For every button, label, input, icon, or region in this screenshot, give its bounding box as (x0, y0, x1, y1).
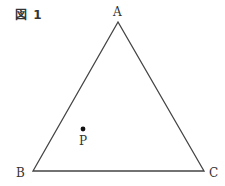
vertex-label-b: B (16, 166, 25, 180)
vertex-label-a: A (112, 5, 122, 19)
point-label-p: P (79, 134, 87, 148)
triangle-diagram: A B C P (0, 0, 225, 186)
point-p-dot (81, 127, 86, 132)
triangle-abc (33, 22, 204, 171)
vertex-label-c: C (209, 166, 218, 180)
